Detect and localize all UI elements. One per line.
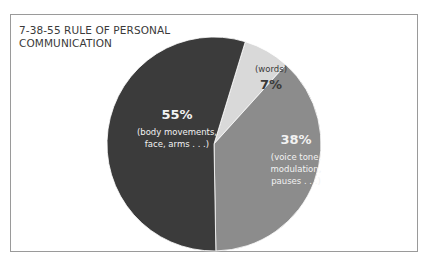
label-words: (words) 7% — [246, 63, 296, 92]
label-voice-pct: 38% — [258, 132, 334, 147]
label-body: 55% (body movements, face, arms . . .) — [122, 107, 232, 150]
label-words-desc: (words) — [246, 63, 296, 75]
label-words-pct: 7% — [246, 77, 296, 92]
label-body-desc-2: face, arms . . .) — [122, 138, 232, 150]
label-voice-desc-1: (voice tone, — [258, 151, 334, 163]
label-body-desc-1: (body movements, — [122, 126, 232, 138]
label-voice: 38% (voice tone, modulation, pauses . . … — [258, 132, 334, 187]
label-body-pct: 55% — [122, 107, 232, 122]
label-voice-desc-3: pauses . . .) — [258, 175, 334, 187]
label-voice-desc-2: modulation, — [258, 163, 334, 175]
